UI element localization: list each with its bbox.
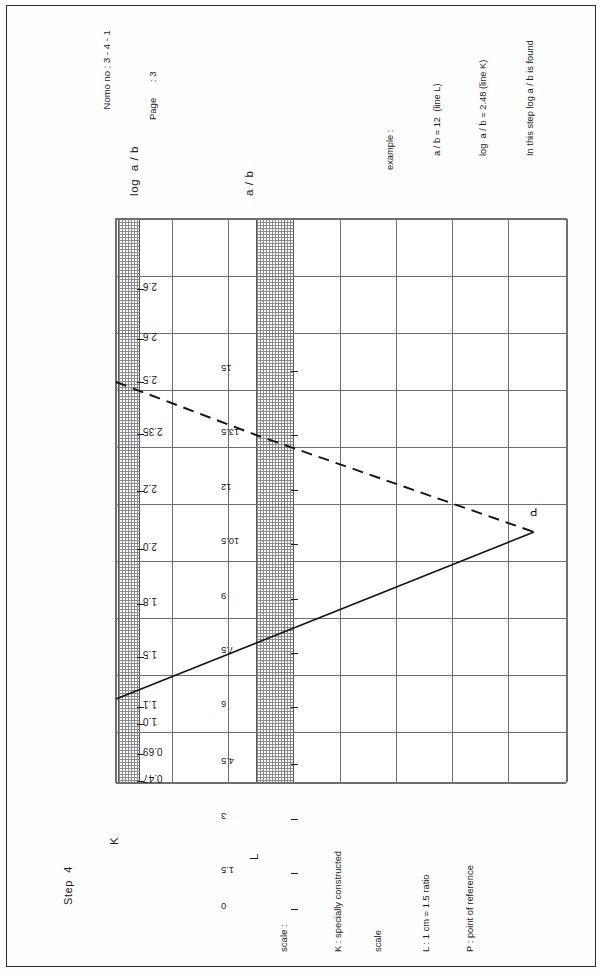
tick-label-l: 12 bbox=[221, 482, 255, 493]
legend-items: K : specially constructed scale L : 1 cm… bbox=[302, 851, 506, 952]
tick-mark bbox=[291, 873, 298, 874]
legend-title: scale : bbox=[278, 924, 289, 952]
k-scale-marker: K bbox=[108, 837, 120, 845]
tick-label-k: 1.5 bbox=[143, 649, 177, 660]
axis-caption-l: a / b bbox=[243, 171, 255, 196]
tick-label-k: 2.6 bbox=[143, 331, 177, 342]
legend-item-0: K : specially constructed bbox=[331, 851, 346, 952]
nomogram-page: Nomo no : 3 - 4 - 1 Page : 3 example : a… bbox=[0, 0, 604, 974]
point-of-reference-label: P bbox=[530, 506, 537, 518]
tick-label-l: 7.5 bbox=[221, 645, 255, 656]
tick-label-k: 2.5 bbox=[143, 374, 177, 385]
tick-label-k: 0.47 bbox=[143, 773, 177, 784]
tick-label-k: 2.35 bbox=[143, 426, 177, 437]
example-line-4: In this step log a / b is found bbox=[523, 40, 539, 170]
header-block: Nomo no : 3 - 4 - 1 Page : 3 bbox=[72, 30, 210, 120]
tick-label-k: 2.2 bbox=[143, 483, 177, 494]
tick-label-l: 6 bbox=[221, 699, 255, 710]
example-line-1: example : bbox=[383, 40, 399, 170]
example-note: example : a / b = 12 (line L) log a / b … bbox=[352, 40, 569, 170]
tick-label-l: 13.5 bbox=[221, 427, 255, 438]
tick-label-l: 15 bbox=[221, 363, 255, 374]
tick-label-l: 9 bbox=[221, 591, 255, 602]
tick-label-l: 0 bbox=[221, 901, 255, 912]
tick-label-l: 1.5 bbox=[221, 865, 255, 876]
plot-lines bbox=[116, 219, 568, 784]
example-line-3: log a / b = 2.48 (line K) bbox=[476, 40, 492, 170]
legend-item-1: scale bbox=[371, 851, 386, 952]
nomogram-grid: P bbox=[115, 218, 567, 783]
nomo-number: Nomo no : 3 - 4 - 1 bbox=[101, 30, 112, 109]
example-line-2: a / b = 12 (line L) bbox=[430, 40, 446, 170]
page-number: Page : 3 bbox=[141, 30, 164, 120]
tick-label-k: 2.6 bbox=[143, 281, 177, 292]
tick-label-l: 3 bbox=[221, 811, 255, 822]
tick-label-k: 2.0 bbox=[143, 541, 177, 552]
axis-caption-k: log a / b bbox=[128, 146, 140, 196]
tick-label-l: 4.5 bbox=[221, 756, 255, 767]
line-l-solid bbox=[116, 532, 534, 699]
tick-label-k: 1.8 bbox=[143, 596, 177, 607]
tick-mark bbox=[291, 819, 298, 820]
tick-label-k: 0.69 bbox=[143, 746, 177, 757]
tick-label-k: 1.1 bbox=[143, 699, 177, 710]
legend-item-2: L : 1 cm = 1.5 ratio bbox=[419, 851, 434, 952]
step-label: Step 4 bbox=[62, 866, 74, 905]
legend-item-3: P : point of reference bbox=[463, 851, 478, 952]
tick-label-k: 1.0 bbox=[143, 716, 177, 727]
line-k-dashed bbox=[116, 382, 534, 532]
l-scale-marker: L bbox=[248, 854, 260, 860]
tick-mark bbox=[291, 909, 298, 910]
tick-label-l: 10.5 bbox=[221, 536, 255, 547]
